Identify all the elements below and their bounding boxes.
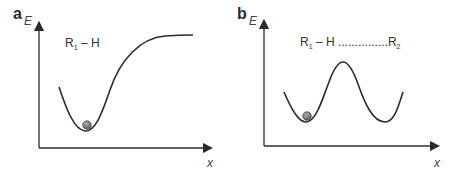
species-name: R [300,35,309,49]
panel-letter-a: a [13,5,22,23]
panel-b-plot [226,0,454,177]
panel-a: a E x R1 – H [0,0,228,177]
ball [303,112,312,121]
y-axis-label: E [24,14,32,28]
species-name: R [65,36,74,50]
panel-a-plot [0,0,228,177]
ball [83,121,92,130]
x-axis-label: x [434,156,440,170]
panel-b: b E x R1 – H ...............R2 [226,0,454,177]
species-label: R1 – H [65,36,100,51]
panel-letter-b: b [237,5,247,23]
energy-curve [284,62,403,122]
species2-subscript: 2 [397,43,401,50]
species-label: R1 – H ...............R2 [300,35,401,50]
species-suffix: – H ............... [313,35,388,49]
species-suffix: – H [78,36,100,50]
x-axis-label: x [207,156,213,170]
species2-name: R [388,35,397,49]
y-axis-label: E [249,14,257,28]
